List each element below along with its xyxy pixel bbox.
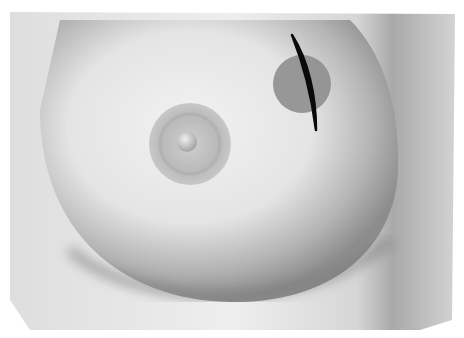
nipple: [177, 132, 197, 152]
medical-illustration: [10, 12, 456, 330]
illustration-canvas: [10, 12, 456, 330]
